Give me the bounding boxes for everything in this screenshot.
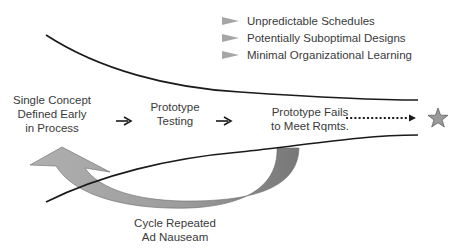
bullet-label: Unpredictable Schedules [247,15,375,27]
bullet-item: Unpredictable Schedules [222,12,412,29]
arrow-right-icon [116,117,131,125]
step-label-line: Defined Early [2,107,102,121]
triangle-bullet-icon [222,17,239,25]
step-label-line: Testing [135,114,215,128]
cycle-return-arrow [30,147,299,208]
bullet-item: Potentially Suboptimal Designs [222,29,412,46]
step-label-line: Prototype Fails [255,105,365,119]
step-label-line: in Process [2,121,102,135]
outcome-bullet-list: Unpredictable Schedules Potentially Subo… [222,12,412,63]
step-label-line: Prototype [135,100,215,114]
bullet-label: Potentially Suboptimal Designs [247,32,406,44]
cycle-label: Cycle Repeated Ad Nauseam [125,216,225,244]
arrow-right-icon [216,117,231,125]
step-single-concept: Single Concept Defined Early in Process [2,93,102,135]
bullet-label: Minimal Organizational Learning [247,49,412,61]
cycle-label-line: Ad Nauseam [125,230,225,244]
cycle-label-line: Cycle Repeated [125,216,225,230]
triangle-bullet-icon [222,34,239,42]
step-label-line: Single Concept [2,93,102,107]
star-icon [428,108,448,127]
step-prototype-fails: Prototype Fails to Meet Rqmts. [255,105,365,133]
triangle-bullet-icon [222,51,239,59]
step-prototype-testing: Prototype Testing [135,100,215,128]
step-label-line: to Meet Rqmts. [255,119,365,133]
bullet-item: Minimal Organizational Learning [222,46,412,63]
